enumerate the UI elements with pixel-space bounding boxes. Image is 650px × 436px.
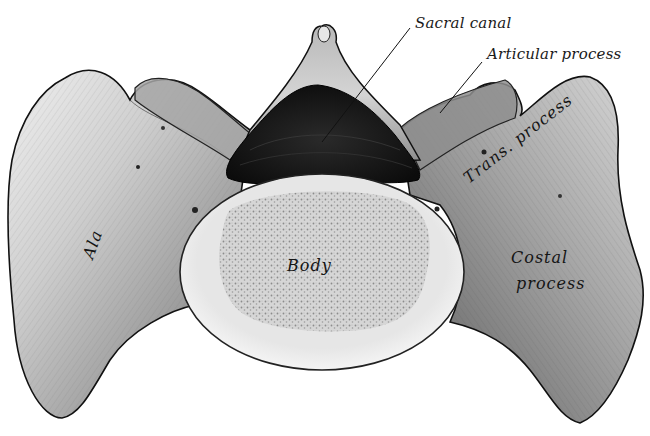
sacrum-illustration: Sacral canal Articular process Trans. pr… [0,0,650,436]
label-articular-process: Articular process [487,47,621,62]
label-body: Body [287,258,332,274]
label-costal-process-line1: Costal [511,250,568,266]
label-costal-process-line2: process [516,276,585,292]
sacrum-drawing [0,0,650,436]
label-sacral-canal: Sacral canal [415,16,511,31]
sacral-canal [227,85,420,184]
